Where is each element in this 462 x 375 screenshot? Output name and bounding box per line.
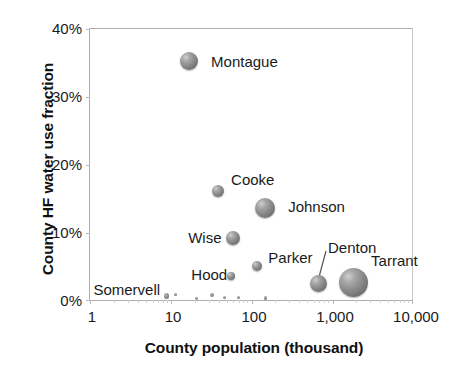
bubble-johnson bbox=[255, 198, 275, 218]
x-tick-mark-minor bbox=[319, 300, 320, 303]
data-label-tarrant: Tarrant bbox=[371, 252, 418, 269]
bubble-unlabeled-9 bbox=[174, 293, 177, 296]
x-tick-label-10: 10 bbox=[128, 308, 218, 325]
x-tick-mark-minor bbox=[227, 300, 228, 303]
x-tick-mark-minor bbox=[394, 300, 395, 303]
bubble-unlabeled-12 bbox=[223, 296, 226, 299]
x-tick-mark-minor bbox=[146, 300, 147, 303]
y-tick-mark-40 bbox=[86, 29, 90, 30]
data-label-johnson: Johnson bbox=[288, 198, 345, 215]
x-tick-label-100: 100 bbox=[209, 308, 299, 325]
x-tick-mark-minor bbox=[388, 300, 389, 303]
y-tick-label-30: 30% bbox=[22, 88, 82, 105]
bubble-chart: County HF water use fraction 40% 30% 20%… bbox=[0, 0, 462, 375]
x-tick-mark-10000 bbox=[412, 300, 413, 304]
x-tick-mark-minor bbox=[299, 300, 300, 303]
x-tick-mark-minor bbox=[233, 300, 234, 303]
x-tick-mark-minor bbox=[370, 300, 371, 303]
x-tick-label-1: 1 bbox=[47, 308, 137, 325]
x-tick-mark-minor bbox=[114, 300, 115, 303]
y-tick-label-20: 20% bbox=[22, 156, 82, 173]
bubble-unlabeled-13 bbox=[237, 296, 240, 299]
bubble-montague bbox=[180, 52, 198, 70]
x-tick-mark-minor bbox=[307, 300, 308, 303]
x-tick-mark-10 bbox=[171, 300, 172, 304]
data-label-hood: Hood bbox=[191, 266, 227, 283]
bubble-unlabeled-11 bbox=[210, 293, 214, 297]
x-tick-mark-minor bbox=[289, 300, 290, 303]
x-tick-mark-minor bbox=[128, 300, 129, 303]
x-tick-mark-1 bbox=[90, 300, 91, 304]
y-tick-mark-30 bbox=[86, 97, 90, 98]
y-tick-mark-20 bbox=[86, 165, 90, 166]
x-tick-mark-minor bbox=[195, 300, 196, 303]
bubble-wise bbox=[226, 231, 240, 245]
y-tick-label-0: 0% bbox=[22, 292, 82, 309]
x-tick-mark-1000 bbox=[333, 300, 334, 304]
x-tick-mark-minor bbox=[219, 300, 220, 303]
plot-area: MontagueCookeJohnsonWiseParkerHoodDenton… bbox=[89, 28, 413, 301]
bubble-cooke bbox=[212, 185, 224, 197]
data-label-parker: Parker bbox=[268, 249, 312, 266]
x-tick-mark-minor bbox=[404, 300, 405, 303]
x-tick-mark-minor bbox=[356, 300, 357, 303]
y-tick-mark-10 bbox=[86, 233, 90, 234]
x-tick-mark-minor bbox=[153, 300, 154, 303]
data-label-cooke: Cooke bbox=[231, 171, 274, 188]
x-tick-mark-100 bbox=[252, 300, 253, 304]
x-tick-mark-minor bbox=[209, 300, 210, 303]
x-tick-mark-minor bbox=[275, 300, 276, 303]
x-axis-title: County population (thousand) bbox=[0, 339, 462, 357]
bubble-unlabeled-14 bbox=[264, 296, 267, 299]
y-tick-label-40: 40% bbox=[22, 20, 82, 37]
x-tick-mark-minor bbox=[247, 300, 248, 303]
x-tick-mark-minor bbox=[239, 300, 240, 303]
x-tick-mark-minor bbox=[408, 300, 409, 303]
x-tick-mark-minor bbox=[400, 300, 401, 303]
x-tick-mark-minor bbox=[163, 300, 164, 303]
denton-leader-line bbox=[90, 29, 414, 302]
bubble-somervell bbox=[164, 293, 169, 298]
x-tick-label-1000: 1,000 bbox=[290, 308, 380, 325]
bubble-hood bbox=[227, 272, 235, 280]
x-tick-label-10000: 10,000 bbox=[371, 308, 461, 325]
data-label-somervell: Somervell bbox=[93, 281, 160, 298]
x-tick-mark-minor bbox=[314, 300, 315, 303]
y-tick-label-10: 10% bbox=[22, 224, 82, 241]
data-label-denton: Denton bbox=[328, 239, 376, 256]
x-tick-mark-minor bbox=[324, 300, 325, 303]
x-tick-mark-minor bbox=[167, 300, 168, 303]
x-tick-mark-minor bbox=[328, 300, 329, 303]
data-label-wise: Wise bbox=[188, 229, 221, 246]
bubble-tarrant bbox=[339, 268, 368, 297]
x-tick-mark-minor bbox=[138, 300, 139, 303]
data-label-montague: Montague bbox=[211, 53, 278, 70]
x-tick-mark-minor bbox=[243, 300, 244, 303]
x-tick-mark-minor bbox=[158, 300, 159, 303]
x-tick-mark-minor bbox=[380, 300, 381, 303]
bubble-parker bbox=[252, 261, 262, 271]
bubble-denton bbox=[310, 275, 327, 292]
